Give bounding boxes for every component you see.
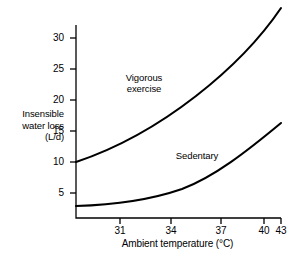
series-label-sedentary: Sedentary [168, 150, 226, 161]
x-tick-label-43: 43 [269, 226, 292, 236]
y-axis-title-line-3: (L/d) [2, 131, 64, 143]
y-axis-title: Insensible water loss (L/d) [2, 108, 64, 143]
x-axis-title: Ambient temperature (°C) [70, 238, 285, 249]
y-tick-label-30: 30 [44, 33, 64, 43]
series-label-vigorous-line-1: Vigorous [113, 72, 175, 83]
y-tick-label-10: 10 [44, 157, 64, 167]
x-tick-label-37: 37 [209, 226, 233, 236]
x-tick-label-31: 31 [108, 226, 132, 236]
series-label-vigorous-line-2: exercise [113, 83, 175, 94]
series-label-vigorous-exercise: Vigorous exercise [113, 72, 175, 94]
axis-spine [76, 25, 281, 218]
y-axis-title-line-2: water loss [2, 120, 64, 132]
y-tick-label-20: 20 [44, 95, 64, 105]
y-tick-label-25: 25 [44, 64, 64, 74]
x-axis-ticks [120, 218, 281, 224]
y-axis-title-line-1: Insensible [2, 108, 64, 120]
x-tick-label-34: 34 [159, 226, 183, 236]
series-line-sedentary [76, 123, 281, 206]
chart-figure: 30 25 20 15 10 5 31 34 37 40 43 Insensib… [0, 0, 292, 257]
y-axis-ticks [70, 38, 76, 193]
series-line-vigorous-exercise [76, 8, 281, 162]
y-tick-label-5: 5 [44, 188, 64, 198]
